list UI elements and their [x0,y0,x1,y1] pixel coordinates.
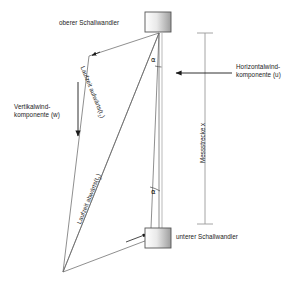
upper-angle-label: α [151,56,156,64]
lower-angle-label: α [151,188,156,196]
diagram-vector-layer [0,0,303,284]
horizontal-wind-label-line2: komponente (u) [236,71,281,79]
vertical-wind-label-line2: komponente (w) [14,111,60,119]
upper-transducer-label: oberer Schallwandler [59,19,119,27]
upper-angle-arc [155,66,162,67]
vertical-wind-label-line1: Vertikalwind- [14,103,50,111]
lower-transducer-label: unterer Schallwandler [176,233,238,241]
horizontal-wind-label-line1: Horizontalwind- [236,63,280,71]
vertical-sound-path [159,33,162,228]
apex-to-lower-transducer-path [63,236,158,272]
upper-transducer-box [145,12,171,32]
measurement-distance-label: Messstrecke x [199,123,206,163]
diagram-canvas: oberer Schallwandler unterer Schallwandl… [0,0,303,284]
lower-transducer-box [145,228,171,248]
